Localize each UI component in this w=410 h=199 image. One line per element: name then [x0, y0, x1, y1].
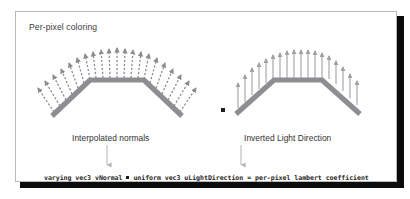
shader-code-expression: varying vec3 vNormal uniform vec3 uLight… [44, 174, 394, 182]
slide-card: Per-pixel coloring [15, 11, 397, 182]
slide-canvas: Per-pixel coloring [0, 0, 410, 199]
code-uniform-declaration: uniform vec3 uLightDirection [133, 174, 243, 182]
connector-arrows-layer [16, 12, 398, 183]
code-result-label: per-pixel lambert coefficient [255, 174, 369, 182]
code-varying-declaration: varying vec3 vNormal [44, 174, 122, 182]
code-equals-sign: = [247, 174, 251, 182]
code-dot-operator-icon [126, 176, 129, 179]
